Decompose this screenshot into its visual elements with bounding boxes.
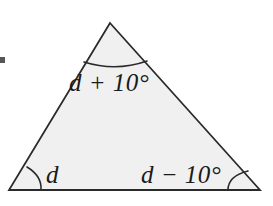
apex-angle-label: d + 10° <box>69 70 149 95</box>
triangle-diagram-svg <box>0 0 273 206</box>
bottom-right-angle-label: d − 10° <box>141 162 221 187</box>
scan-artifact <box>0 57 5 63</box>
triangle-figure: d + 10° d d − 10° <box>0 0 273 206</box>
bottom-left-angle-label: d <box>46 162 59 187</box>
